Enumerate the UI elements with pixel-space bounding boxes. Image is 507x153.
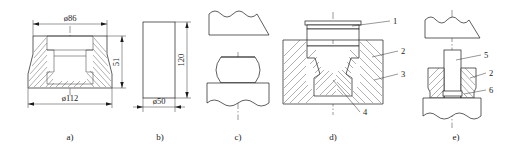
panel-d-punch-body [307, 29, 359, 40]
panel-e-callout-2-text: 2 [489, 68, 493, 78]
panel-d: 1 2 3 4 d) [283, 12, 405, 142]
panel-a-dim-height-text: 51 [111, 58, 121, 67]
panel-a-caption: a) [67, 132, 74, 142]
panel-d-punch-plate [305, 21, 361, 25]
engineering-figure: ø86 ø112 51 a) [0, 0, 507, 153]
panel-a: ø86 ø112 51 a) [28, 13, 126, 142]
panel-e-caption: e) [453, 132, 460, 142]
panel-b-dim-height: 120 [175, 22, 191, 98]
panel-d-punch-plate-2 [307, 25, 359, 29]
panel-b-dim-diameter-text: ø50 [153, 96, 166, 106]
panel-e-upper-ram [425, 17, 480, 38]
panel-b-dim-height-text: 120 [176, 54, 186, 67]
panel-e-callout-5-text: 5 [484, 50, 488, 60]
panel-d-callout-1-text: 1 [393, 16, 397, 26]
panel-e-slug [443, 91, 462, 96]
panel-d-callout-2-text: 2 [401, 46, 405, 56]
panel-c-caption: c) [235, 132, 242, 142]
panel-c: c) [207, 11, 269, 142]
panel-d-callout-3-text: 3 [401, 69, 405, 79]
panel-a-dim-bottom-diameter-text: ø112 [62, 93, 79, 103]
panel-b: ø50 120 b) [133, 22, 191, 142]
panel-e-bolster [423, 98, 481, 119]
panel-b-dim-diameter: ø50 [133, 96, 185, 112]
panel-e-callout-6-text: 6 [489, 85, 493, 95]
panel-b-caption: b) [156, 132, 164, 142]
panel-b-billet [143, 22, 175, 98]
panel-d-callout-4-text: 4 [363, 107, 368, 117]
panel-e: 5 2 6 e) [423, 10, 493, 142]
panel-c-lower-die [207, 83, 269, 106]
panel-d-caption: d) [329, 132, 337, 142]
panel-c-billet [216, 57, 260, 83]
panel-c-upper-die [209, 11, 269, 35]
panel-a-dim-top-diameter-text: ø86 [64, 13, 77, 23]
